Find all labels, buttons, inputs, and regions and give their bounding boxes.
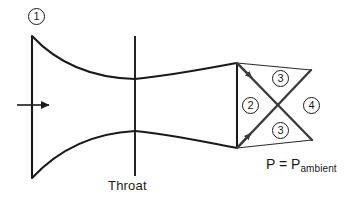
nozzle-diagram: 1 2 3 3 4 Throat P = Pambient <box>0 0 362 203</box>
region-label-1: 1 <box>28 8 45 25</box>
ambient-pressure-label: P = Pambient <box>266 157 337 174</box>
converging-lower-wall <box>32 131 135 178</box>
region-label-3-upper: 3 <box>272 70 289 87</box>
throat-label: Throat <box>108 179 147 192</box>
region-label-2: 2 <box>242 97 259 114</box>
oblique-shock-lower-arrow <box>238 133 251 147</box>
region-label-4: 4 <box>303 97 320 114</box>
diverging-lower-wall <box>135 131 237 148</box>
converging-upper-wall <box>32 36 135 79</box>
ambient-pressure-subscript-text: ambient <box>300 163 336 174</box>
ambient-pressure-main-text: P = P <box>266 156 300 172</box>
diverging-upper-wall <box>135 63 237 79</box>
plume-upper-boundary <box>237 63 311 70</box>
plume-lower-boundary <box>237 140 312 148</box>
region-label-3-lower: 3 <box>272 122 289 139</box>
oblique-shock-upper-arrow <box>238 64 252 78</box>
